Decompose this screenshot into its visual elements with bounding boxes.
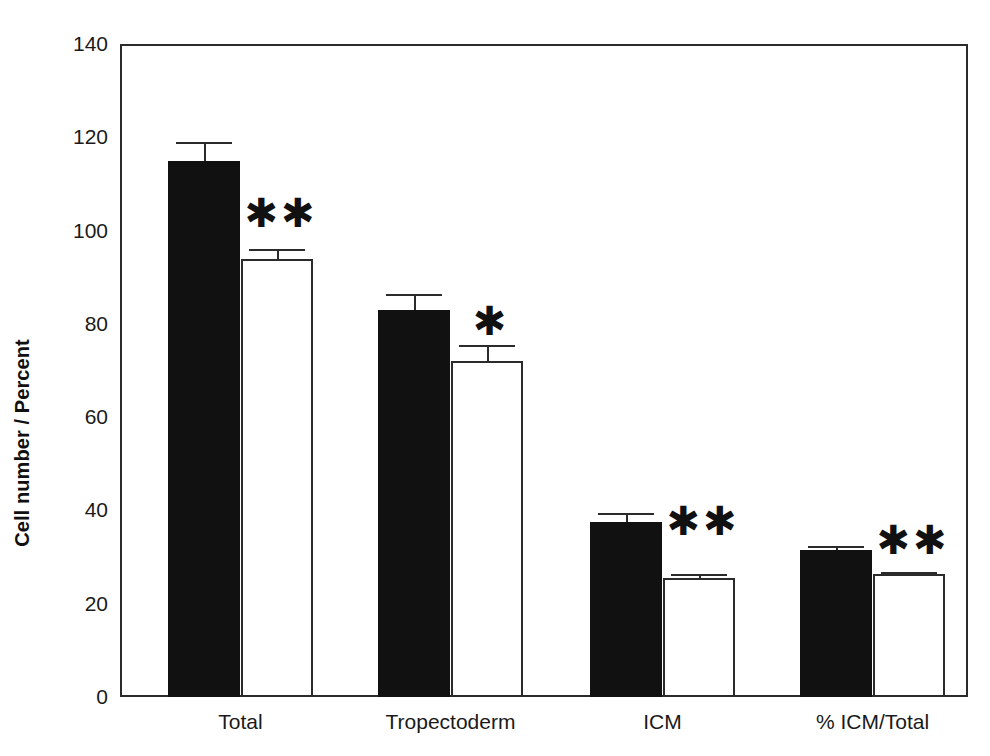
error-bar-cap: [808, 546, 864, 548]
x-axis-tick-label: % ICM/Total: [816, 710, 929, 734]
bar-filled-tropectoderm: [378, 310, 450, 697]
bar-filled-total: [168, 161, 240, 697]
y-axis-tick-label: 120: [52, 125, 108, 149]
bar-open-tropectoderm: [451, 361, 523, 697]
error-bar-cap: [881, 572, 937, 574]
significance-marker: ✱: [473, 301, 510, 341]
x-axis-tick-label: Total: [218, 710, 262, 734]
error-bar-stem: [487, 345, 489, 361]
bar-open-total: [241, 259, 313, 697]
error-bar-stem: [414, 294, 416, 310]
bar-filled-icm-total: [800, 550, 872, 697]
y-axis-title: Cell number / Percent: [0, 0, 44, 756]
error-bar-cap: [459, 345, 515, 347]
y-axis-tick-label: 20: [52, 592, 108, 616]
significance-marker: ✱✱: [244, 193, 317, 233]
error-bar-stem: [204, 142, 206, 161]
y-axis-tick-label: 100: [52, 219, 108, 243]
bars-layer: ✱✱✱✱✱✱✱: [120, 44, 968, 697]
y-axis-tick-label: 40: [52, 498, 108, 522]
y-axis-tick-label: 140: [52, 32, 108, 56]
error-bar-cap: [671, 574, 727, 576]
error-bar-cap: [176, 142, 232, 144]
bar-filled-icm: [590, 522, 662, 697]
bar-chart: Cell number / Percent 140120100806040200…: [0, 0, 990, 756]
y-axis-tick-label: 0: [52, 685, 108, 709]
error-bar-cap: [249, 249, 305, 251]
y-axis-tick-label: 80: [52, 312, 108, 336]
bar-open-icm: [663, 578, 735, 697]
error-bar-cap: [386, 294, 442, 296]
y-axis-tick-label: 60: [52, 405, 108, 429]
error-bar-cap: [598, 513, 654, 515]
y-axis-tick-labels: 140120100806040200: [44, 0, 108, 756]
significance-marker: ✱✱: [666, 501, 739, 541]
x-axis-tick-label: ICM: [643, 710, 682, 734]
significance-marker: ✱✱: [876, 520, 949, 560]
bar-open-icm-total: [873, 574, 945, 697]
x-axis-tick-label: Tropectoderm: [386, 710, 516, 734]
